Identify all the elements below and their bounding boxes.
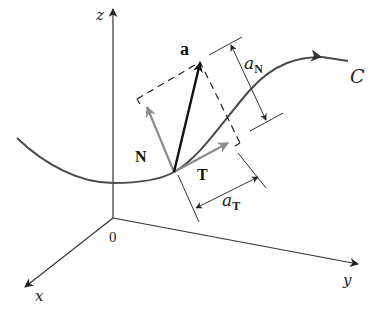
curve-path [17, 57, 322, 183]
y-axis-label: y [342, 271, 352, 289]
dashed-box-bottom-edge [235, 143, 240, 146]
a-n-label: aN [244, 53, 263, 76]
a-t-tick-left [178, 175, 199, 222]
dashed-box [137, 62, 240, 143]
acceleration-label: a [180, 39, 189, 59]
a-n-tick-bottom [250, 113, 283, 131]
curve-label: C [350, 65, 365, 87]
a-n-tick-top [209, 37, 242, 55]
normal-component-dimension: aN [209, 37, 283, 131]
a-t-tick-right [238, 153, 266, 188]
projection-box [137, 62, 240, 146]
vectors: a N T [135, 39, 228, 183]
unit-tangent-label: T [197, 166, 208, 183]
curve-tail [322, 57, 348, 61]
a-n-base: a [244, 53, 254, 73]
origin-label: 0 [109, 229, 117, 245]
dashed-box-left-edge [137, 99, 140, 104]
a-t-base: a [222, 190, 232, 210]
axes: z x y 0 [25, 6, 358, 305]
y-axis [113, 218, 358, 264]
a-n-subscript: N [254, 62, 263, 76]
unit-normal-vector [147, 107, 174, 172]
unit-normal-label: N [135, 148, 147, 165]
x-axis [25, 218, 113, 287]
a-t-subscript: T [232, 199, 240, 213]
z-axis-label: z [95, 6, 104, 24]
x-axis-label: x [35, 287, 44, 305]
a-t-label: aT [222, 190, 240, 213]
curvature-diagram: z x y 0 C a N T aN a [0, 0, 370, 311]
curve-direction-arrow-icon [310, 50, 323, 63]
